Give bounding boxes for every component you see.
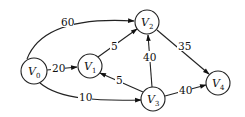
svg-text:2: 2 [149,23,153,31]
edge-weight-v2-v4: 35 [178,40,191,52]
edge-weight-v3-v1: 5 [116,74,123,86]
edge-weight-v1-v2: 5 [111,40,118,52]
edge-weight-v0-v1: 20 [52,62,65,74]
edge-weight-v0-v3: 10 [79,91,92,103]
svg-text:1: 1 [92,67,96,75]
svg-text:4: 4 [220,84,225,92]
node-v4: V 4 [206,71,230,95]
graph-diagram: 60 20 10 5 5 40 35 40 V 0 [0,0,245,117]
edge-v2-v4 [157,30,209,74]
node-v1: V 1 [78,54,102,78]
svg-text:3: 3 [155,100,159,108]
node-v2: V 2 [135,10,159,34]
edge-weight-v3-v4: 40 [179,84,192,96]
edge-v0-v2 [27,20,134,59]
node-v3: V 3 [141,87,165,111]
edges: 60 20 10 5 5 40 35 40 [27,16,209,103]
edge-weight-v0-v2: 60 [61,16,74,28]
svg-text:0: 0 [36,72,40,80]
node-v0: V 0 [21,58,47,84]
edge-weight-v3-v2: 40 [143,51,156,63]
